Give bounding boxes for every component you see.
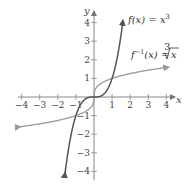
- cubic-label-exponent: 3: [166, 13, 170, 21]
- cubic-function-label: f(x) = x3: [127, 13, 170, 25]
- y-tick-label: 3: [84, 36, 90, 46]
- y-tick-label: −3: [77, 148, 91, 158]
- x-tick-label: −4: [15, 100, 29, 110]
- inverse-label-exponent: −1: [135, 48, 145, 56]
- radicand: x: [171, 49, 177, 60]
- function-inverse-graph: −4−3−2−11234 4321−1−2−3−4 x y f(x) = x3 …: [0, 0, 191, 185]
- y-axis-label: y: [83, 5, 90, 16]
- x-tick-label: 1: [109, 100, 115, 110]
- axes: [18, 11, 175, 180]
- x-tick-label: −2: [51, 100, 64, 110]
- x-tick-label: 4: [164, 100, 170, 110]
- y-tick-label: −4: [77, 166, 91, 176]
- y-tick-label: 2: [84, 55, 90, 65]
- y-tick-label: 1: [84, 73, 90, 83]
- x-axis-label: x: [176, 94, 182, 105]
- y-tick-label: −2: [77, 129, 90, 139]
- cubic-label-main: f(x) = x: [127, 14, 166, 25]
- x-tick-label: 3: [145, 100, 151, 110]
- x-tick-label: 2: [127, 100, 133, 110]
- x-tick-label: −3: [33, 100, 47, 110]
- y-tick-label: 4: [84, 18, 90, 28]
